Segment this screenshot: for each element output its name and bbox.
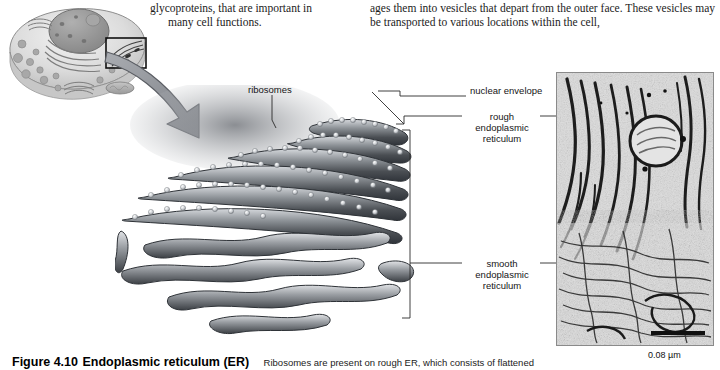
label-smooth-endoplasmic-reticulum: smooth endoplasmic reticulum <box>466 258 538 291</box>
micrograph-vesicle <box>630 116 682 166</box>
body-text-left-column: glycoproteins, that are important in man… <box>150 2 322 29</box>
figure-caption: Figure 4.10 Endoplasmic reticulum (ER) R… <box>12 352 712 370</box>
label-ribosomes: ribosomes <box>248 84 292 95</box>
body-text-left-line-2: many cell functions. <box>150 16 322 30</box>
body-text-right-column: ages them into vesicles that depart from… <box>370 2 715 29</box>
body-text-left-line-1: glycoproteins, that are important in <box>150 2 312 14</box>
figure-number: Figure 4.10 <box>12 355 78 369</box>
electron-micrograph <box>556 72 714 346</box>
nucleus <box>49 9 109 53</box>
body-text-right-line-1: ages them into vesicles that depart from… <box>370 2 653 14</box>
label-nuclear-envelope: nuclear envelope <box>470 85 542 96</box>
figure-title: Endoplasmic reticulum (ER) <box>82 355 249 369</box>
figure-caption-body: Ribosomes are present on rough ER, which… <box>264 357 534 368</box>
label-rough-endoplasmic-reticulum: rough endoplasmic reticulum <box>466 111 538 144</box>
scale-bar <box>651 331 705 335</box>
er-diagram-illustration <box>115 85 425 335</box>
smooth-er-tubules <box>115 231 414 334</box>
